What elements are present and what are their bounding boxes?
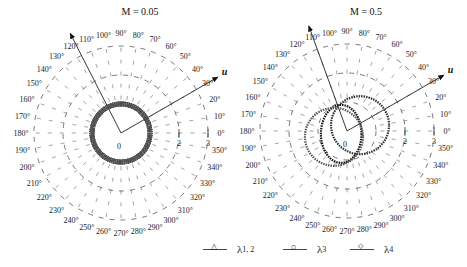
svg-text:0: 0 [117,142,121,151]
angle-label: 50° [180,52,191,61]
angle-label: 280° [357,225,372,234]
angle-label: 320° [416,191,431,200]
svg-text:2: 2 [177,139,181,148]
angle-label: 40° [192,65,203,74]
angle-label: 320° [190,193,205,202]
polar-plot-1: 0°10°20°30°40°50°60°70°80°90°100°110°120… [239,6,453,236]
diamond-marker-icon: ◇ [350,244,374,254]
angle-label: 340° [433,161,448,170]
angle-label: 200° [19,163,34,172]
angle-label: 140° [263,63,278,72]
angle-label: 120° [63,42,78,51]
angle-label: 100° [322,29,337,38]
angle-label: 10° [214,112,225,121]
svg-text:3: 3 [432,137,436,146]
angle-label: 300° [389,214,404,223]
angle-label: 120° [289,40,304,49]
angle-label: 190° [15,146,30,155]
angle-label: 160° [245,93,260,102]
legend-item-lambda4: ◇ λ4 [350,243,393,255]
angle-label: 0° [443,127,450,136]
angle-label: 90° [341,27,352,36]
angle-label: 80° [359,29,370,38]
angle-label: 330° [426,177,441,186]
angle-label: 90° [115,29,126,38]
angle-label: 40° [418,63,429,72]
angle-label: 170° [15,112,30,121]
angle-label: 130° [49,52,64,61]
angle-label: 60° [165,42,176,51]
legend-item-lambda12: △ λ1, 2 [203,243,254,255]
angle-label: 20° [435,93,446,102]
angle-label: 140° [37,65,52,74]
angle-label: 350° [212,146,227,155]
angle-label: 110° [79,35,94,44]
angle-label: 60° [391,40,402,49]
svg-text:u: u [222,66,228,77]
angle-label: 310° [404,204,419,213]
angle-label: 350° [438,144,453,153]
angle-label: 10° [440,110,451,119]
angle-label: 20° [209,95,220,104]
angle-label: 220° [37,193,52,202]
angle-label: 100° [96,31,111,40]
angle-label: 260° [322,225,337,234]
svg-text:u: u [448,64,454,75]
angle-label: 150° [253,77,268,86]
angle-label: 290° [148,223,163,232]
angle-label: 290° [374,221,389,230]
angle-label: 250° [79,223,94,232]
angle-label: 190° [241,144,256,153]
angle-label: 170° [241,110,256,119]
angle-label: 300° [163,216,178,225]
angle-label: 0° [217,129,224,138]
angle-label: 310° [178,206,193,215]
angle-label: 270° [113,229,128,238]
angle-label: 250° [305,221,320,230]
polar-plot-0: 0°10°20°30°40°50°60°70°80°90°100°110°120… [13,6,227,238]
angle-label: 80° [133,31,144,40]
circle-marker-icon: ○ [283,244,307,254]
angle-label: 330° [200,179,215,188]
legend-item-lambda3: ○ λ3 [283,243,326,255]
angle-label: 70° [376,33,387,42]
chart-title: M = 0.5 [350,6,382,17]
chart-title: M = 0.05 [121,6,158,17]
angle-label: 160° [19,95,34,104]
angle-label: 130° [275,50,290,59]
angle-label: 210° [253,177,268,186]
angle-label: 340° [207,163,222,172]
triangle-marker-icon: △ [203,244,227,254]
angle-label: 260° [96,227,111,236]
polar-charts: 0°10°20°30°40°50°60°70°80°90°100°110°120… [0,0,467,267]
angle-label: 50° [406,50,417,59]
svg-text:2: 2 [403,137,407,146]
angle-label: 210° [27,179,42,188]
svg-text:0: 0 [343,140,347,149]
angle-label: 280° [131,227,146,236]
angle-label: 270° [339,227,354,236]
angle-label: 70° [150,35,161,44]
angle-label: 240° [63,216,78,225]
angle-label: 240° [289,214,304,223]
angle-label: 180° [239,127,254,136]
angle-label: 220° [263,191,278,200]
angle-label: 150° [27,79,42,88]
angle-label: 230° [275,204,290,213]
angle-label: 180° [13,129,28,138]
angle-label: 200° [245,161,260,170]
angle-label: 230° [49,206,64,215]
svg-text:3: 3 [206,139,210,148]
